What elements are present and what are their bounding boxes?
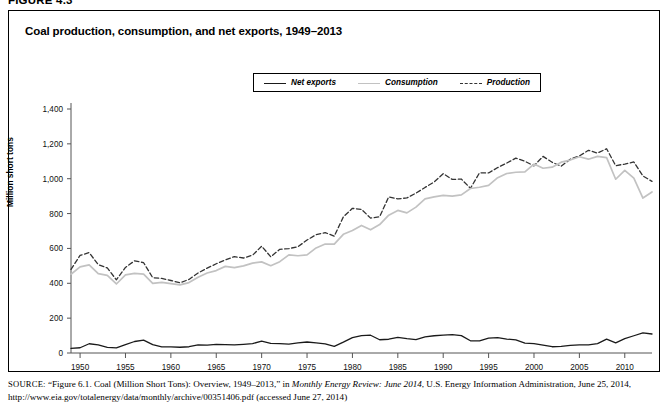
line-chart-svg: 02004006008001,0001,2001,400195019551960… <box>9 11 661 373</box>
x-axis-tick-label: 1955 <box>116 363 135 372</box>
y-axis-tick-label: 1,000 <box>43 175 64 184</box>
x-axis-tick-label: 2000 <box>525 363 544 372</box>
y-axis-tick-label: 800 <box>49 210 63 219</box>
x-axis-tick-label: 1990 <box>434 363 453 372</box>
figure-box: Coal production, consumption, and net ex… <box>8 10 660 372</box>
y-axis-tick-label: 0 <box>58 349 63 358</box>
figure-number: FIGURE 4.3 <box>8 0 73 6</box>
source-text-b: , U.S. Energy Information Administration… <box>422 379 576 389</box>
source-prefix: SOURCE: <box>8 379 46 389</box>
x-axis-tick-label: 1985 <box>389 363 408 372</box>
x-axis-tick-label: 1950 <box>71 363 90 372</box>
x-axis-tick-label: 1975 <box>298 363 317 372</box>
y-axis-tick-label: 600 <box>49 244 63 253</box>
y-axis-tick-label: 200 <box>49 314 63 323</box>
series-line-consumption <box>71 156 652 284</box>
source-text-a: “Figure 6.1. Coal (Million Short Tons): … <box>46 379 292 389</box>
x-axis-tick-label: 1995 <box>479 363 498 372</box>
source-note: SOURCE: “Figure 6.1. Coal (Million Short… <box>8 378 664 404</box>
x-axis-tick-label: 2005 <box>570 363 589 372</box>
x-axis-tick-label: 1980 <box>343 363 362 372</box>
y-axis-tick-label: 1,200 <box>43 140 64 149</box>
y-axis-tick-label: 400 <box>49 279 63 288</box>
x-axis-tick-label: 1960 <box>162 363 181 372</box>
series-line-production <box>71 149 652 283</box>
plot-area: 02004006008001,0001,2001,400195019551960… <box>9 11 661 373</box>
source-publication: Monthly Energy Review: June 2014 <box>292 379 422 389</box>
x-axis-tick-label: 1965 <box>207 363 226 372</box>
y-axis-tick-label: 1,400 <box>43 105 64 114</box>
x-axis-tick-label: 2010 <box>616 363 635 372</box>
series-line-net-exports <box>71 333 652 349</box>
x-axis-tick-label: 1970 <box>253 363 272 372</box>
